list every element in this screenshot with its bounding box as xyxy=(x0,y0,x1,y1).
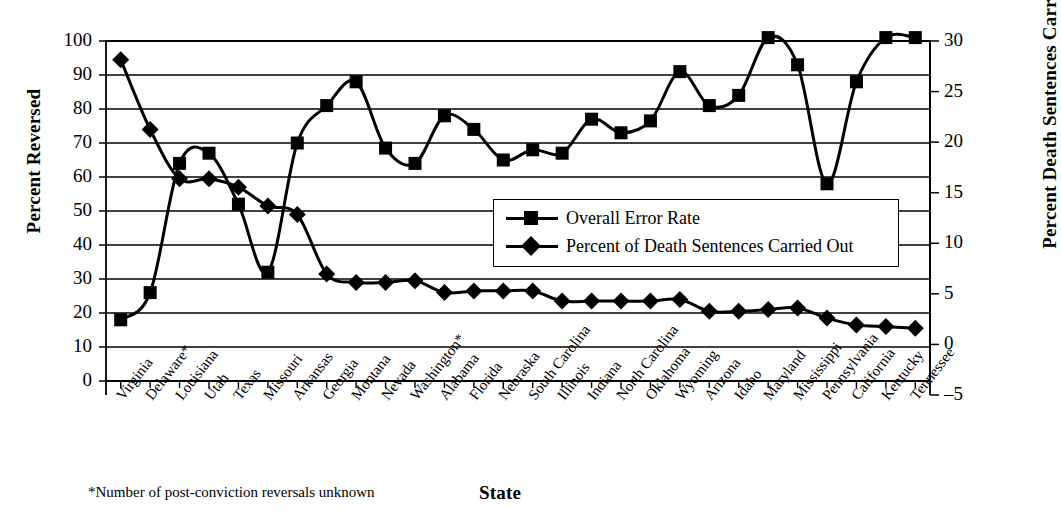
data-point-square xyxy=(644,114,657,127)
data-point-diamond xyxy=(760,301,777,318)
data-point-diamond xyxy=(495,282,512,299)
data-point-square xyxy=(320,99,333,112)
data-point-diamond xyxy=(671,291,688,308)
data-point-square xyxy=(291,137,304,150)
data-point-diamond xyxy=(877,318,894,335)
legend-item-percent-carried-out: Percent of Death Sentences Carried Out xyxy=(506,233,853,259)
data-point-square xyxy=(762,31,775,44)
legend-square-marker-icon xyxy=(506,208,558,228)
data-point-square xyxy=(556,147,569,160)
data-point-diamond xyxy=(436,284,453,301)
data-point-diamond xyxy=(348,274,365,291)
data-point-square xyxy=(114,313,127,326)
data-point-square xyxy=(350,75,363,88)
data-point-diamond xyxy=(524,282,541,299)
data-point-diamond xyxy=(907,320,924,337)
data-point-diamond xyxy=(201,170,218,187)
data-point-square xyxy=(232,198,245,211)
data-point-diamond xyxy=(613,293,630,310)
data-point-square xyxy=(203,147,216,160)
data-point-diamond xyxy=(789,299,806,316)
data-point-square xyxy=(673,65,686,78)
data-point-diamond xyxy=(554,293,571,310)
data-point-square xyxy=(703,99,716,112)
data-point-diamond xyxy=(701,303,718,320)
data-point-square xyxy=(909,31,922,44)
data-point-diamond xyxy=(407,272,424,289)
data-point-square xyxy=(467,123,480,136)
legend-label: Percent of Death Sentences Carried Out xyxy=(566,236,853,257)
data-point-square xyxy=(261,266,274,279)
data-point-square xyxy=(850,75,863,88)
data-point-square xyxy=(173,157,186,170)
data-point-diamond xyxy=(819,310,836,327)
data-point-square xyxy=(379,142,392,155)
data-point-diamond xyxy=(730,303,747,320)
data-point-square xyxy=(409,157,422,170)
data-point-square xyxy=(791,58,804,71)
y-axis-right-title: Percent Death Sentences Carried Out xyxy=(1039,0,1061,258)
data-point-diamond xyxy=(259,197,276,214)
data-point-square xyxy=(615,126,628,139)
legend-item-overall-error-rate: Overall Error Rate xyxy=(506,205,700,231)
data-point-diamond xyxy=(377,274,394,291)
data-point-square xyxy=(879,31,892,44)
data-point-square xyxy=(526,143,539,156)
data-point-diamond xyxy=(583,293,600,310)
data-point-diamond xyxy=(465,282,482,299)
legend-diamond-marker-icon xyxy=(506,236,558,256)
chart-legend: Overall Error Rate Percent of Death Sent… xyxy=(493,199,899,267)
data-point-diamond xyxy=(112,51,129,68)
data-point-square xyxy=(438,109,451,122)
data-point-square xyxy=(497,154,510,167)
data-point-diamond xyxy=(142,121,159,138)
data-point-square xyxy=(144,286,157,299)
data-point-square xyxy=(732,89,745,102)
data-point-diamond xyxy=(848,316,865,333)
data-point-square xyxy=(585,113,598,126)
legend-label: Overall Error Rate xyxy=(566,208,700,229)
data-point-square xyxy=(821,177,834,190)
data-point-diamond xyxy=(642,293,659,310)
